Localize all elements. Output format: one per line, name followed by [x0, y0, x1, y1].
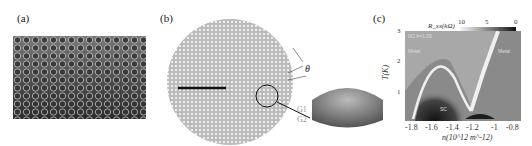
x-tick: -1.6	[425, 123, 438, 132]
region-metal-right: Metal	[498, 48, 510, 54]
x-tick: -1	[491, 123, 498, 132]
theta-symbol: θ	[305, 63, 310, 74]
panel-a-label: (a)	[17, 12, 29, 24]
bilayer-inset-image	[310, 80, 385, 132]
y-tick: 3	[397, 27, 401, 35]
region-sc: SC	[440, 106, 447, 112]
colorbar-tick: 5	[485, 18, 489, 26]
moire-pattern-image: θ	[160, 18, 310, 146]
colorbar-tick: 0	[514, 18, 518, 26]
x-axis-label: n(10^12 m^-12)	[442, 133, 493, 142]
x-tick: -1.8	[405, 123, 418, 132]
graphene-lattice-image	[13, 36, 146, 119]
layer-g2-label: G2	[297, 115, 307, 124]
y-axis-label: T(K)	[381, 65, 390, 80]
x-tick: -1.2	[466, 123, 479, 132]
x-tick: -0.8	[506, 123, 519, 132]
colorbar-tick: 10	[458, 18, 465, 26]
resistance-heatmap	[405, 31, 521, 121]
y-tick: 2	[397, 57, 401, 65]
y-tick: 1	[397, 88, 401, 96]
region-metal-left: Metal	[408, 48, 420, 54]
colorbar-title: R_xx(kΩ)	[428, 22, 455, 30]
sample-label: M2 θ=1.05	[408, 33, 432, 39]
layer-g1-label: G1	[297, 105, 307, 114]
x-tick: -1.4	[446, 123, 459, 132]
panel-c-label: (c)	[373, 12, 385, 24]
